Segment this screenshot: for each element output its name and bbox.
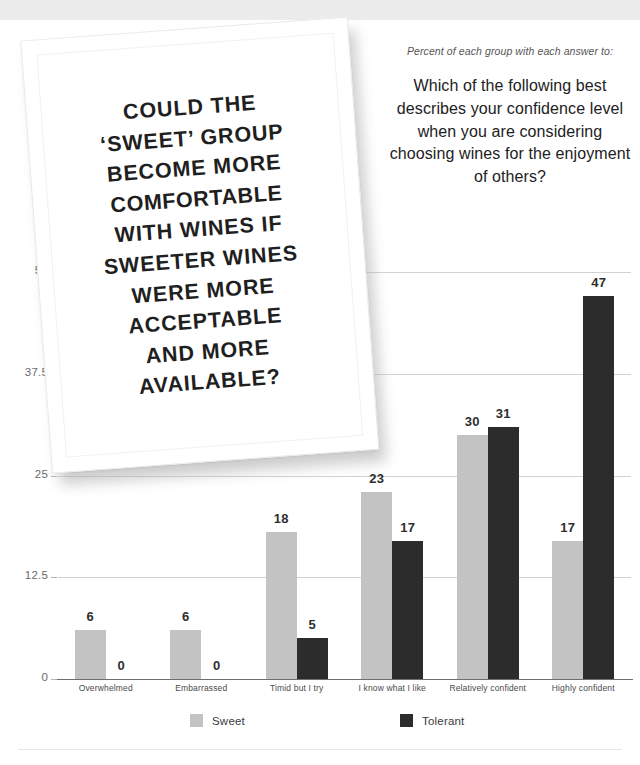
bar-value-label: 18 bbox=[260, 511, 303, 526]
bar-value-label: 0 bbox=[100, 658, 143, 673]
legend-label: Sweet bbox=[212, 715, 245, 727]
x-axis-category-label: Relatively confident bbox=[440, 683, 536, 693]
bar-value-label: 6 bbox=[164, 609, 207, 624]
legend-item-sweet[interactable]: Sweet bbox=[190, 714, 245, 727]
chart-legend: SweetTolerant bbox=[0, 714, 640, 736]
pull-quote-inner-border: COULD THE‘SWEET’ GROUPBECOME MORECOMFORT… bbox=[36, 33, 363, 458]
bar-value-label: 47 bbox=[577, 275, 620, 290]
x-axis-category-label: Embarrassed bbox=[154, 683, 250, 693]
bar-value-label: 6 bbox=[69, 609, 112, 624]
x-axis-category-label: I know what I like bbox=[345, 683, 441, 693]
bottom-divider bbox=[18, 749, 622, 750]
bar-tolerant[interactable] bbox=[297, 638, 328, 679]
y-axis-tick-label: 37.5 bbox=[0, 366, 48, 378]
y-axis-tick-label: 12.5 bbox=[0, 569, 48, 581]
x-axis-category-label: Highly confident bbox=[536, 683, 632, 693]
y-axis-tick-mark bbox=[51, 577, 57, 578]
bar-sweet[interactable] bbox=[266, 532, 297, 679]
bar-value-label: 0 bbox=[195, 658, 238, 673]
pull-quote-text: COULD THE‘SWEET’ GROUPBECOME MORECOMFORT… bbox=[80, 85, 320, 405]
legend-label: Tolerant bbox=[422, 715, 465, 727]
x-axis-line bbox=[56, 679, 633, 680]
bar-tolerant[interactable] bbox=[583, 296, 614, 679]
legend-item-tolerant[interactable]: Tolerant bbox=[400, 714, 465, 727]
question-block: Percent of each group with each answer t… bbox=[388, 44, 632, 189]
x-axis-category-label: Timid but I try bbox=[249, 683, 345, 693]
question-kicker: Percent of each group with each answer t… bbox=[388, 44, 632, 58]
question-text: Which of the following best describes yo… bbox=[388, 75, 632, 189]
bar-value-label: 17 bbox=[386, 520, 429, 535]
pull-quote-surface: COULD THE‘SWEET’ GROUPBECOME MORECOMFORT… bbox=[20, 17, 379, 474]
x-axis-category-label: Overwhelmed bbox=[58, 683, 154, 693]
pull-quote-card: COULD THE‘SWEET’ GROUPBECOME MORECOMFORT… bbox=[20, 17, 381, 480]
bar-value-label: 23 bbox=[355, 471, 398, 486]
bar-sweet[interactable] bbox=[457, 435, 488, 679]
bar-tolerant[interactable] bbox=[392, 541, 423, 679]
y-axis-tick-mark bbox=[51, 679, 57, 680]
bar-tolerant[interactable] bbox=[488, 427, 519, 679]
bar-sweet[interactable] bbox=[552, 541, 583, 679]
legend-swatch-icon bbox=[400, 714, 413, 727]
gridline bbox=[58, 577, 631, 578]
bar-value-label: 31 bbox=[482, 406, 525, 421]
legend-swatch-icon bbox=[190, 714, 203, 727]
y-axis-tick-label: 0 bbox=[0, 671, 48, 683]
y-axis-tick-label: 25 bbox=[0, 468, 48, 480]
bar-value-label: 5 bbox=[291, 617, 334, 632]
